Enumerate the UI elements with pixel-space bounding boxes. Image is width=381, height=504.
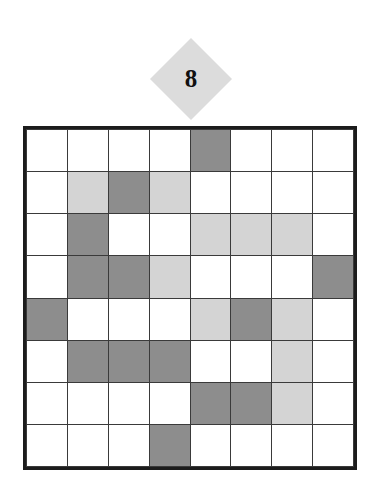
grid-cell-r2-c8[interactable] [313, 172, 354, 214]
grid-cell-r8-c1[interactable] [27, 424, 68, 466]
grid-cell-r7-c3[interactable] [108, 382, 149, 424]
grid-cell-r4-c8[interactable] [313, 256, 354, 298]
grid-row [27, 256, 354, 298]
grid-cell-r7-c8[interactable] [313, 382, 354, 424]
grid-cell-r6-c5[interactable] [190, 340, 231, 382]
grid-cell-r3-c3[interactable] [108, 214, 149, 256]
grid-cell-r8-c2[interactable] [67, 424, 108, 466]
grid-cell-r4-c5[interactable] [190, 256, 231, 298]
grid-cell-r2-c2[interactable] [67, 172, 108, 214]
grid-row [27, 382, 354, 424]
grid-cell-r5-c4[interactable] [149, 298, 190, 340]
grid-cell-r7-c5[interactable] [190, 382, 231, 424]
grid-cell-r1-c3[interactable] [108, 130, 149, 172]
grid-row [27, 214, 354, 256]
grid-cell-r6-c1[interactable] [27, 340, 68, 382]
grid-cell-r2-c7[interactable] [272, 172, 313, 214]
grid-cell-r2-c5[interactable] [190, 172, 231, 214]
grid-cell-r8-c7[interactable] [272, 424, 313, 466]
grid-cell-r3-c4[interactable] [149, 214, 190, 256]
grid-cell-r2-c6[interactable] [231, 172, 272, 214]
grid-cell-r4-c1[interactable] [27, 256, 68, 298]
grid-cell-r4-c2[interactable] [67, 256, 108, 298]
grid-row [27, 424, 354, 466]
grid-cell-r6-c8[interactable] [313, 340, 354, 382]
grid-frame [23, 126, 357, 470]
grid-cell-r4-c7[interactable] [272, 256, 313, 298]
grid-cell-r4-c3[interactable] [108, 256, 149, 298]
grid-cell-r2-c4[interactable] [149, 172, 190, 214]
grid-cell-r2-c1[interactable] [27, 172, 68, 214]
grid-cell-r1-c4[interactable] [149, 130, 190, 172]
grid-cell-r8-c6[interactable] [231, 424, 272, 466]
grid-cell-r7-c1[interactable] [27, 382, 68, 424]
grid-row [27, 172, 354, 214]
grid-cell-r8-c8[interactable] [313, 424, 354, 466]
grid-cell-r6-c6[interactable] [231, 340, 272, 382]
grid-cell-r1-c5[interactable] [190, 130, 231, 172]
grid-cell-r5-c7[interactable] [272, 298, 313, 340]
grid-cell-r5-c6[interactable] [231, 298, 272, 340]
grid-cell-r8-c4[interactable] [149, 424, 190, 466]
nonogram-puzzle-page: { "badge": { "label": "8", "shape": "dia… [0, 0, 381, 504]
grid-row [27, 298, 354, 340]
grid-cell-r5-c2[interactable] [67, 298, 108, 340]
grid-cell-r3-c6[interactable] [231, 214, 272, 256]
grid-cell-r1-c7[interactable] [272, 130, 313, 172]
grid-cell-r4-c6[interactable] [231, 256, 272, 298]
grid-cell-r1-c2[interactable] [67, 130, 108, 172]
grid-cell-r1-c1[interactable] [27, 130, 68, 172]
grid-cell-r7-c4[interactable] [149, 382, 190, 424]
grid-cell-r3-c5[interactable] [190, 214, 231, 256]
grid-cell-r3-c1[interactable] [27, 214, 68, 256]
grid-cell-r6-c2[interactable] [67, 340, 108, 382]
grid-cell-r8-c5[interactable] [190, 424, 231, 466]
grid-cell-r5-c3[interactable] [108, 298, 149, 340]
grid-cell-r5-c8[interactable] [313, 298, 354, 340]
grid-cell-r3-c7[interactable] [272, 214, 313, 256]
grid-cell-r5-c1[interactable] [27, 298, 68, 340]
grid-cell-r7-c6[interactable] [231, 382, 272, 424]
grid-cell-r5-c5[interactable] [190, 298, 231, 340]
grid-body [27, 130, 354, 467]
grid-cell-r3-c8[interactable] [313, 214, 354, 256]
number-badge: 8 [150, 38, 232, 120]
grid-row [27, 130, 354, 172]
grid-cell-r7-c2[interactable] [67, 382, 108, 424]
grid-cell-r4-c4[interactable] [149, 256, 190, 298]
puzzle-grid[interactable] [26, 129, 354, 467]
grid-cell-r6-c4[interactable] [149, 340, 190, 382]
grid-cell-r2-c3[interactable] [108, 172, 149, 214]
grid-cell-r1-c8[interactable] [313, 130, 354, 172]
grid-row [27, 340, 354, 382]
grid-cell-r3-c2[interactable] [67, 214, 108, 256]
badge-number-label: 8 [150, 38, 232, 120]
grid-cell-r1-c6[interactable] [231, 130, 272, 172]
grid-cell-r6-c7[interactable] [272, 340, 313, 382]
grid-cell-r8-c3[interactable] [108, 424, 149, 466]
grid-cell-r6-c3[interactable] [108, 340, 149, 382]
grid-cell-r7-c7[interactable] [272, 382, 313, 424]
